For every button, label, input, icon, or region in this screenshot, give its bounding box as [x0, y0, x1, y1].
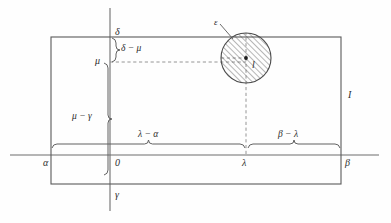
diagram-svg	[0, 0, 391, 223]
label-beta: β	[345, 158, 350, 168]
figure-canvas: I l ε δμγ0αβλ δ − μμ − γλ − αβ − λ	[0, 0, 391, 223]
label-zero: 0	[115, 158, 120, 168]
brace-lambda-minus-alpha-label: λ − α	[138, 130, 158, 140]
epsilon-label: ε	[214, 18, 218, 27]
brace-mu-minus-gamma-label: μ − γ	[72, 112, 92, 122]
disc-center-dot	[244, 56, 248, 60]
brace-delta-minus-mu	[112, 38, 120, 62]
disc-center-label: l	[252, 60, 255, 70]
label-alpha: α	[43, 158, 48, 168]
brace-mu-minus-gamma	[104, 63, 112, 175]
axes-group	[10, 8, 379, 211]
label-lambda: λ	[242, 158, 246, 168]
label-gamma: γ	[115, 190, 119, 200]
brace-lambda-minus-alpha	[52, 140, 245, 148]
label-delta: δ	[115, 27, 120, 37]
brace-beta-minus-lambda	[248, 140, 340, 148]
brace-beta-minus-lambda-label: β − λ	[278, 130, 298, 140]
region-I-label: I	[348, 90, 351, 100]
brace-delta-minus-mu-label: δ − μ	[121, 44, 141, 54]
label-mu: μ	[95, 56, 100, 66]
